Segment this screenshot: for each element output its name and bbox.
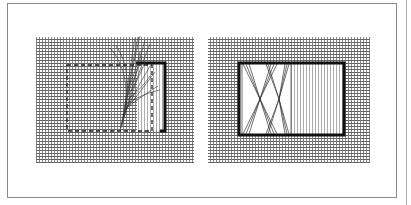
right-panel bbox=[208, 37, 370, 163]
left-panel bbox=[36, 36, 194, 163]
withdrawn-area-right bbox=[291, 64, 343, 134]
fabric-grid-left bbox=[36, 37, 194, 163]
needlework-illustration bbox=[0, 0, 411, 205]
